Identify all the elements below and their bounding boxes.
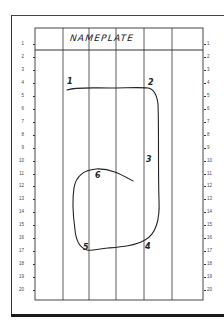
row-number-left: 8 xyxy=(14,132,24,137)
row-number-right: 3 xyxy=(207,67,217,72)
row-number-left: 1 xyxy=(14,41,24,46)
row-tick-left xyxy=(33,174,35,175)
row-tick-right xyxy=(204,174,206,175)
row-number-left: 16 xyxy=(14,235,24,240)
row-number-left: 3 xyxy=(14,67,24,72)
row-tick-left xyxy=(33,135,35,136)
row-tick-right xyxy=(204,122,206,123)
row-tick-left xyxy=(33,225,35,226)
row-number-left: 10 xyxy=(14,158,24,163)
row-tick-left xyxy=(33,251,35,252)
row-number-left: 18 xyxy=(14,261,24,266)
grid-border xyxy=(35,28,203,300)
row-number-right: 4 xyxy=(207,80,217,85)
row-tick-left xyxy=(33,264,35,265)
row-tick-left xyxy=(33,70,35,71)
row-number-right: 9 xyxy=(207,145,217,150)
row-number-right: 7 xyxy=(207,119,217,124)
row-number-left: 9 xyxy=(14,145,24,150)
row-number-left: 13 xyxy=(14,196,24,201)
row-number-right: 1 xyxy=(207,41,217,46)
row-number-right: 10 xyxy=(207,158,217,163)
row-tick-left xyxy=(33,57,35,58)
row-tick-left xyxy=(33,238,35,239)
row-number-right: 18 xyxy=(207,261,217,266)
row-tick-right xyxy=(204,148,206,149)
row-number-right: 15 xyxy=(207,222,217,227)
row-tick-left xyxy=(33,109,35,110)
row-number-right: 13 xyxy=(207,196,217,201)
row-number-left: 2 xyxy=(14,54,24,59)
row-tick-left xyxy=(33,44,35,45)
row-tick-right xyxy=(204,57,206,58)
row-tick-left xyxy=(33,161,35,162)
row-tick-right xyxy=(204,161,206,162)
row-number-left: 11 xyxy=(14,171,24,176)
row-number-right: 20 xyxy=(207,287,217,292)
column-lines xyxy=(63,28,172,300)
row-tick-right xyxy=(204,70,206,71)
point-label-5: 5 xyxy=(83,243,89,252)
row-tick-left xyxy=(33,148,35,149)
row-tick-left xyxy=(33,186,35,187)
row-tick-right xyxy=(204,44,206,45)
row-tick-right xyxy=(204,251,206,252)
row-tick-right xyxy=(204,225,206,226)
row-number-left: 17 xyxy=(14,248,24,253)
row-number-left: 5 xyxy=(14,93,24,98)
row-number-right: 16 xyxy=(207,235,217,240)
row-number-right: 14 xyxy=(207,209,217,214)
row-number-right: 17 xyxy=(207,248,217,253)
nameplate-title: NAMEPLATE xyxy=(69,33,134,43)
row-tick-left xyxy=(33,277,35,278)
row-tick-right xyxy=(204,238,206,239)
row-tick-right xyxy=(204,264,206,265)
row-tick-left xyxy=(33,96,35,97)
row-number-left: 20 xyxy=(14,287,24,292)
row-tick-left xyxy=(33,212,35,213)
point-label-1: 1 xyxy=(67,77,73,86)
row-number-left: 6 xyxy=(14,106,24,111)
row-tick-right xyxy=(204,135,206,136)
row-number-right: 2 xyxy=(207,54,217,59)
row-tick-right xyxy=(204,199,206,200)
row-tick-right xyxy=(204,212,206,213)
row-tick-left xyxy=(33,122,35,123)
row-number-left: 19 xyxy=(14,274,24,279)
row-number-right: 19 xyxy=(207,274,217,279)
point-label-3: 3 xyxy=(146,155,152,164)
row-tick-right xyxy=(204,109,206,110)
point-label-4: 4 xyxy=(145,242,151,251)
row-tick-left xyxy=(33,290,35,291)
row-tick-right xyxy=(204,290,206,291)
row-tick-left xyxy=(33,83,35,84)
row-tick-right xyxy=(204,83,206,84)
row-tick-right xyxy=(204,186,206,187)
row-tick-right xyxy=(204,277,206,278)
point-label-2: 2 xyxy=(148,78,154,87)
row-number-right: 12 xyxy=(207,183,217,188)
row-number-left: 7 xyxy=(14,119,24,124)
row-number-left: 12 xyxy=(14,183,24,188)
point-label-6: 6 xyxy=(95,171,101,180)
row-number-right: 5 xyxy=(207,93,217,98)
route-curve xyxy=(67,88,159,251)
row-tick-right xyxy=(204,96,206,97)
row-number-left: 4 xyxy=(14,80,24,85)
row-number-left: 14 xyxy=(14,209,24,214)
row-number-right: 11 xyxy=(207,171,217,176)
row-number-right: 8 xyxy=(207,132,217,137)
row-number-left: 15 xyxy=(14,222,24,227)
row-number-right: 6 xyxy=(207,106,217,111)
row-tick-left xyxy=(33,199,35,200)
